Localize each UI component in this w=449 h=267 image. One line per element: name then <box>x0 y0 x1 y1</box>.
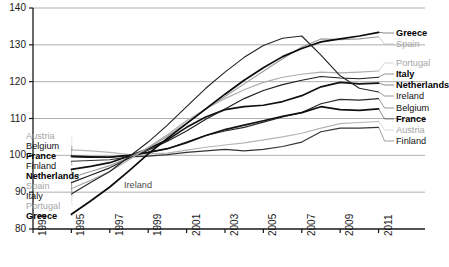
left-label-austria: Austria <box>26 131 55 141</box>
right-label-france: France <box>396 114 426 124</box>
x-tick-label-2005: 2005 <box>267 214 278 236</box>
y-tick-label-80: 80 <box>0 223 26 234</box>
right-label-austria: Austria <box>396 125 425 135</box>
leader-line-greece <box>379 32 394 33</box>
leader-line-belgium <box>379 99 394 108</box>
leader-line-spain <box>379 37 394 44</box>
y-tick-label-110: 110 <box>0 113 26 124</box>
x-tick-label-2001: 2001 <box>191 214 202 236</box>
left-label-italy: Italy <box>26 191 43 201</box>
x-tick-label-2011: 2011 <box>383 214 394 236</box>
annotation-ireland: Ireland <box>124 180 152 190</box>
right-label-spain: Spain <box>396 39 420 49</box>
leader-line-netherlands <box>379 83 394 85</box>
left-label-france: France <box>26 151 56 161</box>
y-tick-label-140: 140 <box>0 2 26 13</box>
leader-line-austria <box>379 121 394 130</box>
right-label-portugal: Portugal <box>396 58 430 68</box>
left-label-finland: Finland <box>26 161 56 171</box>
series-line-belgium <box>71 99 378 158</box>
left-label-spain: Spain <box>26 181 50 191</box>
leader-line-italy <box>379 74 394 77</box>
y-tick-label-120: 120 <box>0 76 26 87</box>
x-tick-label-2003: 2003 <box>229 214 240 236</box>
x-tick-label-2007: 2007 <box>306 214 317 236</box>
right-label-netherlands: Netherlands <box>396 80 449 90</box>
series-line-ireland <box>71 36 378 194</box>
right-label-italy: Italy <box>396 69 414 79</box>
leader-line-france <box>379 109 394 119</box>
x-tick-label-1995: 1995 <box>75 214 86 236</box>
left-leader-finland <box>71 161 72 166</box>
y-tick-label-100: 100 <box>0 149 26 160</box>
x-tick-label-1997: 1997 <box>114 214 125 236</box>
leader-line-finland <box>379 127 394 141</box>
right-label-greece: Greece <box>396 28 427 38</box>
leader-line-ireland <box>379 92 394 96</box>
left-label-portugal: Portugal <box>26 201 60 211</box>
left-label-greece: Greece <box>26 211 57 221</box>
y-tick-label-130: 130 <box>0 39 26 50</box>
left-label-netherlands: Netherlands <box>26 171 79 181</box>
right-label-ireland: Ireland <box>396 91 424 101</box>
x-tick-label-1999: 1999 <box>152 214 163 236</box>
right-label-belgium: Belgium <box>396 103 429 113</box>
y-tick-label-90: 90 <box>0 186 26 197</box>
right-label-finland: Finland <box>396 136 426 146</box>
leader-line-portugal <box>379 63 394 71</box>
left-label-belgium: Belgium <box>26 141 59 151</box>
x-tick-label-2009: 2009 <box>344 214 355 236</box>
series-line-greece <box>71 32 378 214</box>
